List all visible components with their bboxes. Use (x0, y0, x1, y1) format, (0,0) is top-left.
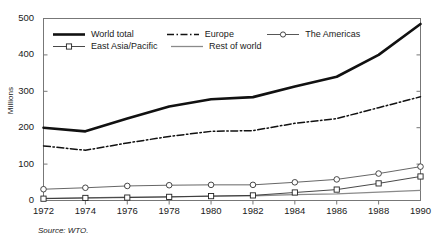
legend-label-east-asia-pacific: East Asia/Pacific (91, 40, 158, 52)
y-tick-label-300: 300 (4, 85, 34, 96)
series-line-east-asia-pacific (44, 176, 421, 198)
x-tick-label-1974: 1974 (65, 205, 105, 216)
legend-item-east-asia-pacific[interactable]: East Asia/Pacific (52, 40, 170, 52)
thin-gray-line-icon (170, 41, 204, 52)
y-tick-label-400: 400 (4, 48, 34, 59)
square-marker-line-icon (52, 41, 86, 52)
x-tick-label-1980: 1980 (191, 205, 231, 216)
legend-label-europe: Europe (205, 28, 234, 40)
legend-item-europe[interactable]: Europe (166, 28, 266, 40)
legend-label-the-americas: The Americas (305, 28, 360, 40)
legend-item-world-total[interactable]: World total (52, 28, 166, 40)
axis-ticks (44, 55, 421, 205)
circle-marker-line-icon (266, 29, 300, 40)
series-line-europe (44, 97, 421, 151)
legend-label-rest-of-world: Rest of world (209, 40, 262, 52)
legend-item-rest-of-world[interactable]: Rest of world (170, 40, 274, 52)
legend-label-world-total: World total (91, 28, 134, 40)
legend-item-the-americas[interactable]: The Americas (266, 28, 382, 40)
y-tick-label-200: 200 (4, 121, 34, 132)
y-tick-label-0: 0 (4, 194, 34, 205)
tourist-arrivals-line-chart: Millions 5004003002001000 19721974197619… (0, 0, 437, 243)
source-note: Source: WTO. (38, 226, 89, 235)
y-tick-label-100: 100 (4, 158, 34, 169)
x-tick-label-1990: 1990 (401, 205, 437, 216)
x-tick-label-1988: 1988 (359, 205, 399, 216)
x-tick-label-1986: 1986 (317, 205, 357, 216)
dash-dot-line-icon (166, 29, 200, 40)
x-tick-label-1982: 1982 (233, 205, 273, 216)
x-tick-label-1976: 1976 (107, 205, 147, 216)
series-line-rest-of-world (44, 190, 421, 198)
legend-row-2: East Asia/Pacific Rest of world (52, 40, 382, 52)
thick-solid-line-icon (52, 29, 86, 40)
y-tick-label-500: 500 (4, 12, 34, 23)
x-tick-label-1972: 1972 (24, 205, 64, 216)
chart-legend: World total Europe The Americas (52, 28, 382, 52)
x-tick-label-1978: 1978 (149, 205, 189, 216)
legend-row-1: World total Europe The Americas (52, 28, 382, 40)
x-tick-label-1984: 1984 (275, 205, 315, 216)
